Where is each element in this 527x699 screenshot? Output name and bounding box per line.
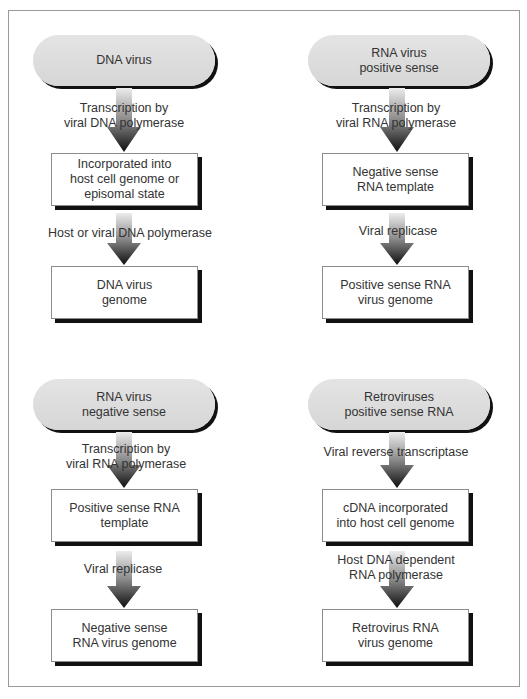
arrow-down-icon: [380, 432, 414, 488]
node-text: Negative sense: [72, 621, 176, 636]
label-line: Transcription by: [64, 101, 184, 116]
rna-negative-start-node: RNA virus negative sense: [33, 379, 215, 430]
rna-negative-step1-label: Transcription by viral RNA polymerase: [66, 442, 186, 472]
node-text: virus genome: [340, 293, 450, 308]
rna-positive-start-node: RNA virus positive sense: [308, 35, 490, 86]
node-text: Positive sense RNA: [69, 501, 179, 516]
retrovirus-step1-label: Viral reverse transcriptase: [324, 445, 469, 460]
rna-negative-middle-node: Positive sense RNA template: [51, 489, 198, 542]
retrovirus-start-node: Retroviruses positive sense RNA: [308, 379, 490, 430]
node-text: RNA virus genome: [72, 636, 176, 651]
retrovirus-step2-label: Host DNA dependent RNA polymerase: [337, 553, 454, 583]
node-text: host cell genome or: [70, 172, 179, 187]
node-text: cDNA incorporated: [336, 501, 454, 516]
node-text: negative sense: [82, 405, 166, 420]
node-text: RNA virus: [359, 46, 438, 61]
label-line: Host or viral DNA polymerase: [48, 226, 212, 241]
label-line: Host DNA dependent: [337, 553, 454, 568]
label-line: viral RNA polymerase: [66, 457, 186, 472]
label-line: viral RNA polymerase: [336, 116, 456, 131]
label-line: Viral reverse transcriptase: [324, 445, 469, 460]
arrow-down-icon: [380, 213, 414, 265]
dna-virus-step2-label: Host or viral DNA polymerase: [48, 226, 212, 241]
node-text: RNA template: [352, 180, 438, 195]
node-text: genome: [97, 293, 153, 308]
rna-negative-end-node: Negative sense RNA virus genome: [51, 609, 198, 662]
node-text: virus genome: [352, 636, 439, 651]
node-text: DNA virus: [96, 53, 152, 68]
dna-virus-middle-node: Incorporated into host cell genome or ep…: [51, 153, 198, 206]
label-line: Transcription by: [66, 442, 186, 457]
node-text: into host cell genome: [336, 516, 454, 531]
label-line: viral DNA polymerase: [64, 116, 184, 131]
rna-positive-end-node: Positive sense RNA virus genome: [322, 266, 469, 319]
node-text: template: [69, 516, 179, 531]
arrow-down-icon: [107, 551, 141, 608]
label-line: Viral replicase: [84, 562, 162, 577]
dna-virus-start-node: DNA virus: [33, 35, 215, 86]
node-text: Positive sense RNA: [340, 278, 450, 293]
rna-negative-step2-label: Viral replicase: [84, 562, 162, 577]
retrovirus-end-node: Retrovirus RNA virus genome: [322, 609, 469, 662]
node-text: episomal state: [70, 187, 179, 202]
rna-positive-step2-label: Viral replicase: [359, 224, 437, 239]
dna-virus-end-node: DNA virus genome: [51, 266, 198, 319]
dna-virus-step1-label: Transcription by viral DNA polymerase: [64, 101, 184, 131]
label-line: Transcription by: [336, 101, 456, 116]
node-text: DNA virus: [97, 278, 153, 293]
rna-positive-middle-node: Negative sense RNA template: [322, 153, 469, 206]
retrovirus-middle-node: cDNA incorporated into host cell genome: [322, 489, 469, 542]
label-line: RNA polymerase: [337, 568, 454, 583]
node-text: Retrovirus RNA: [352, 621, 439, 636]
node-text: RNA virus: [82, 390, 166, 405]
node-text: Negative sense: [352, 165, 438, 180]
node-text: positive sense RNA: [344, 405, 453, 420]
label-line: Viral replicase: [359, 224, 437, 239]
node-text: positive sense: [359, 61, 438, 76]
node-text: Retroviruses: [344, 390, 453, 405]
rna-positive-step1-label: Transcription by viral RNA polymerase: [336, 101, 456, 131]
node-text: Incorporated into: [70, 157, 179, 172]
